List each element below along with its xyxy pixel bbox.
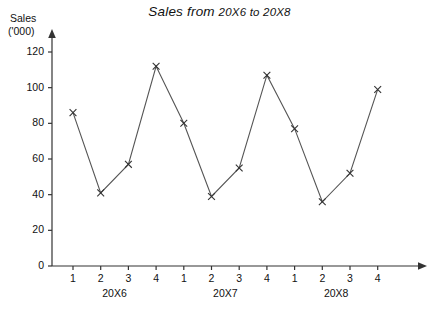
x-tick-label: 3 (335, 272, 365, 284)
data-point-marker (264, 72, 271, 79)
x-tick-label: 3 (113, 272, 143, 284)
y-tick-label: 100 (8, 81, 44, 93)
x-tick-label: 2 (86, 272, 116, 284)
y-tick-label: 20 (8, 223, 44, 235)
data-point-marker (347, 170, 354, 177)
x-group-label: 20X7 (195, 287, 255, 299)
x-group-label: 20X8 (306, 287, 366, 299)
y-tick-label: 120 (8, 45, 44, 57)
y-tick-label: 60 (8, 152, 44, 164)
x-tick-label: 3 (224, 272, 254, 284)
axes (48, 29, 427, 270)
y-tick-label: 80 (8, 116, 44, 128)
x-tick-label: 1 (58, 272, 88, 284)
data-point-marker (319, 198, 326, 205)
x-tick-label: 4 (252, 272, 282, 284)
data-point-marker (97, 189, 104, 196)
plot-area (0, 0, 439, 310)
y-tick-label: 0 (8, 259, 44, 271)
x-tick-label: 1 (280, 272, 310, 284)
data-point-marker (291, 125, 298, 132)
x-group-label: 20X6 (85, 287, 145, 299)
sales-line-chart: Sales from 20X6 to 20X8 Sales ('000) 020… (0, 0, 439, 310)
data-series (70, 63, 382, 205)
data-point-marker (180, 120, 187, 127)
x-tick-label: 2 (197, 272, 227, 284)
x-tick-label: 2 (307, 272, 337, 284)
x-axis-arrowhead (418, 262, 427, 270)
data-point-marker (374, 86, 381, 93)
x-tick-label: 4 (141, 272, 171, 284)
series-line (73, 66, 378, 202)
data-point-marker (153, 63, 160, 70)
data-point-marker (125, 161, 132, 168)
y-tick-label: 40 (8, 188, 44, 200)
y-axis-arrowhead (48, 29, 56, 38)
data-point-marker (236, 165, 243, 172)
data-point-marker (208, 193, 215, 200)
x-tick-label: 4 (363, 272, 393, 284)
data-point-marker (70, 109, 77, 116)
x-tick-label: 1 (169, 272, 199, 284)
